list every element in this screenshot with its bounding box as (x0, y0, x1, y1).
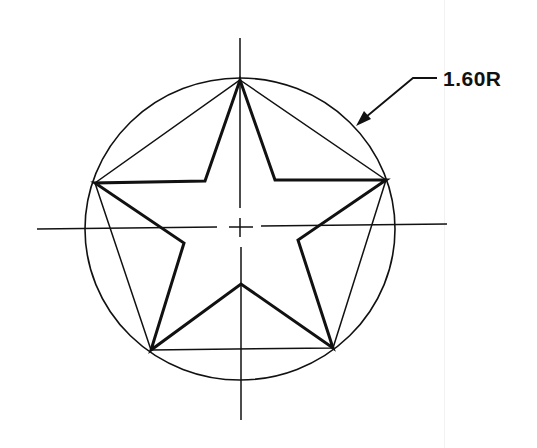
horizontal-centerline (37, 224, 447, 229)
vertical-centerline (240, 38, 241, 420)
arrowhead-icon (356, 111, 371, 126)
dimension-label: 1.60R (443, 68, 502, 89)
radius-leader (360, 78, 437, 122)
